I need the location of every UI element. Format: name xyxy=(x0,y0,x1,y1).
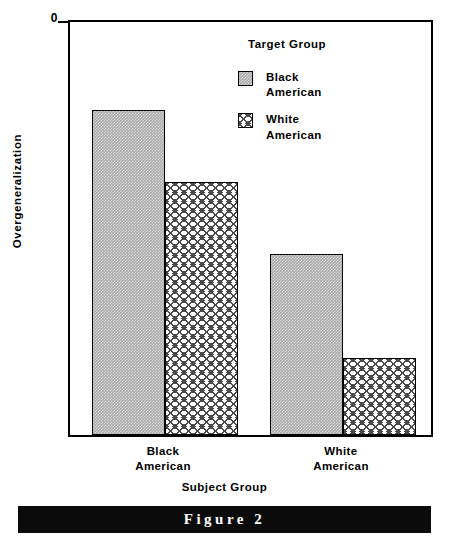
crosshatch-swatch-icon xyxy=(238,113,253,128)
bar-white-american xyxy=(343,358,416,435)
legend-item-white-american[interactable]: White American xyxy=(238,112,418,142)
bar-black-american xyxy=(270,254,343,435)
y-axis-label: Overgeneralization xyxy=(11,91,23,291)
gray-checker-swatch-icon xyxy=(238,71,253,86)
x-category-label: Black American xyxy=(103,444,223,474)
x-category-label: White American xyxy=(281,444,401,474)
legend-item-black-american[interactable]: Black American xyxy=(238,70,418,100)
bar-white-american xyxy=(165,182,238,435)
bar-black-american xyxy=(92,110,165,435)
legend-title: Target Group xyxy=(248,38,418,50)
x-axis-label: Subject Group xyxy=(0,481,449,493)
figure-caption-text: Figure 2 xyxy=(184,511,265,528)
legend-item-label: Black American xyxy=(266,70,322,100)
figure-container: Overgeneralization 02468 Target Group Bl… xyxy=(0,0,449,543)
y-tick-mark: 0 xyxy=(58,21,70,23)
legend-item-label: White American xyxy=(266,112,322,142)
legend: Target Group Black American White Americ… xyxy=(238,38,418,155)
y-tick-label: 0 xyxy=(51,12,58,24)
figure-caption-bar: Figure 2 xyxy=(18,506,431,533)
